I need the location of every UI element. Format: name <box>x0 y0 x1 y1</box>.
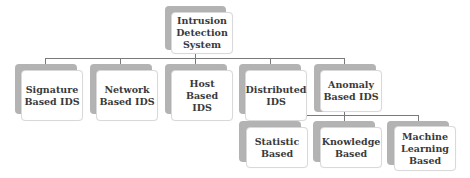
node-label: Distributed IDS <box>246 84 307 108</box>
node-knowledge-based: Knowledge Based <box>320 127 382 168</box>
node-label: Knowledge Based <box>322 136 381 160</box>
node-network-based-ids: Network Based IDS <box>96 70 158 121</box>
node-label: Anomaly Based IDS <box>323 79 378 103</box>
ids-taxonomy-diagram: Intrusion Detection System Signature Bas… <box>0 0 470 178</box>
root-node-intrusion-detection-system: Intrusion Detection System <box>171 12 233 54</box>
node-signature-based-ids: Signature Based IDS <box>21 70 83 121</box>
node-label: Signature Based IDS <box>24 84 79 108</box>
node-host-based-ids: Host Based IDS <box>171 70 233 121</box>
root-node-label: Intrusion Detection System <box>176 15 228 51</box>
node-label: Network Based IDS <box>99 84 154 108</box>
node-label: Statistic Based <box>255 136 300 160</box>
node-anomaly-based-ids: Anomaly Based IDS <box>320 70 382 112</box>
node-distributed-ids: Distributed IDS <box>245 70 307 121</box>
node-machine-learning-based: Machine Learning Based <box>394 126 456 171</box>
node-label: Host Based IDS <box>172 78 232 114</box>
node-label: Machine Learning Based <box>401 131 449 167</box>
node-statistic-based: Statistic Based <box>246 127 308 168</box>
